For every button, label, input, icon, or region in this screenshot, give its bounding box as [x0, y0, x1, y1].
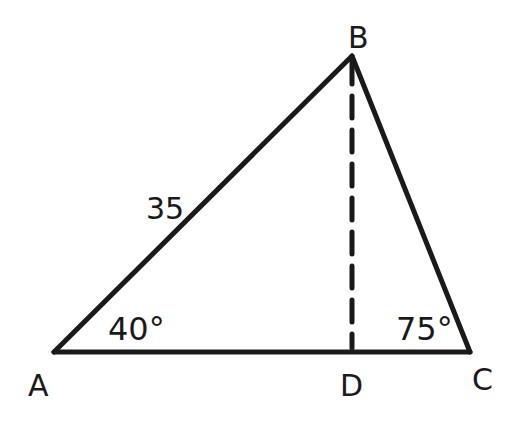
vertex-label-c: C: [472, 362, 493, 397]
vertex-label-a: A: [28, 368, 49, 403]
side-bc: [352, 56, 470, 352]
vertex-label-d: D: [340, 368, 363, 403]
triangle-diagram: B A D C 35 40° 75°: [0, 0, 526, 424]
angle-label-a: 40°: [108, 310, 165, 348]
angle-label-c: 75°: [396, 310, 453, 348]
vertex-label-b: B: [348, 20, 369, 55]
side-ab: [54, 56, 352, 352]
side-length-label-ab: 35: [146, 191, 184, 226]
